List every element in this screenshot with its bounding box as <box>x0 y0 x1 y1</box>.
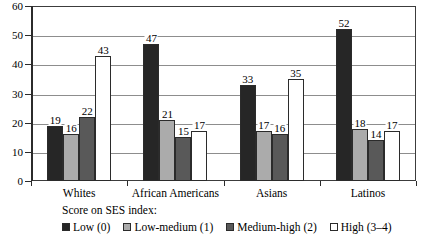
bar[interactable]: 33 <box>240 85 256 181</box>
legend-label: High (3–4) <box>341 221 392 233</box>
bars-layer: 19162243472115173317163552181417 <box>31 6 416 181</box>
bar[interactable]: 17 <box>256 131 272 181</box>
bar-group: 52181417 <box>336 6 400 181</box>
bar-value-label: 33 <box>241 74 254 85</box>
bar-value-label: 15 <box>177 126 190 137</box>
bar[interactable]: 22 <box>79 117 95 181</box>
bar-group: 47211517 <box>143 6 207 181</box>
bar-value-label: 14 <box>369 129 382 140</box>
bar-chart: 0102030405060 19162243472115173317163552… <box>0 0 423 238</box>
legend-label: Medium-high (2) <box>237 221 317 233</box>
bar[interactable]: 21 <box>159 120 175 181</box>
bar-value-label: 18 <box>353 118 366 129</box>
y-axis-label: 30 <box>1 89 23 100</box>
bar-value-label: 52 <box>337 18 350 29</box>
legend-swatch-icon <box>330 223 338 231</box>
legend-label: Low-medium (1) <box>134 221 213 233</box>
bar[interactable]: 18 <box>352 129 368 182</box>
legend-swatch-icon <box>123 223 131 231</box>
y-axis-label: 10 <box>1 147 23 158</box>
bar-value-label: 17 <box>385 120 398 131</box>
bar[interactable]: 15 <box>175 137 191 181</box>
legend-label: Low (0) <box>73 221 110 233</box>
legend-item[interactable]: Low (0) <box>62 221 110 233</box>
bar[interactable]: 19 <box>47 126 63 181</box>
bar-value-label: 16 <box>273 123 286 134</box>
bar-value-label: 19 <box>49 115 62 126</box>
y-axis-label: 50 <box>1 30 23 41</box>
bar[interactable]: 17 <box>191 131 207 181</box>
y-axis-label: 40 <box>1 59 23 70</box>
bar-value-label: 22 <box>81 106 94 117</box>
bar-value-label: 16 <box>65 123 78 134</box>
bar-value-label: 35 <box>289 68 302 79</box>
x-axis-category-label: Asians <box>256 187 287 200</box>
bar-value-label: 21 <box>161 109 174 120</box>
bar-group: 19162243 <box>47 6 111 181</box>
bar-value-label: 47 <box>145 33 158 44</box>
x-axis-category-label: African Americans <box>132 187 219 200</box>
y-axis-label: 20 <box>1 118 23 129</box>
x-axis-tick <box>224 181 225 186</box>
legend-title: Score on SES index: <box>62 204 157 217</box>
bar[interactable]: 47 <box>143 44 159 181</box>
bar-value-label: 17 <box>193 120 206 131</box>
x-axis-tick <box>31 181 32 186</box>
bar-value-label: 17 <box>257 120 270 131</box>
y-axis-label: 0 <box>1 176 23 187</box>
legend-swatch-icon <box>226 223 234 231</box>
bar[interactable]: 17 <box>384 131 400 181</box>
legend-item[interactable]: Medium-high (2) <box>226 221 317 233</box>
bar[interactable]: 52 <box>336 29 352 181</box>
x-axis-category-label: Latinos <box>351 187 386 200</box>
bar-value-label: 43 <box>97 45 110 56</box>
y-axis-label: 60 <box>1 1 23 12</box>
legend-item[interactable]: High (3–4) <box>330 221 392 233</box>
x-axis-tick <box>416 181 417 186</box>
bar[interactable]: 16 <box>63 134 79 181</box>
bar-group: 33171635 <box>240 6 304 181</box>
bar[interactable]: 16 <box>272 134 288 181</box>
bar[interactable]: 43 <box>95 56 111 181</box>
x-axis-category-label: Whites <box>63 187 96 200</box>
legend-swatch-icon <box>62 223 70 231</box>
x-axis-tick <box>320 181 321 186</box>
bar[interactable]: 14 <box>368 140 384 181</box>
bar[interactable]: 35 <box>288 79 304 181</box>
x-axis-tick <box>127 181 128 186</box>
legend-item[interactable]: Low-medium (1) <box>123 221 213 233</box>
legend: Low (0)Low-medium (1)Medium-high (2)High… <box>62 221 392 233</box>
